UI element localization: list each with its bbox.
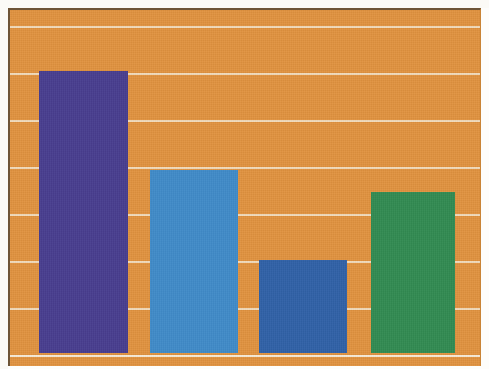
bar-2[interactable] [150, 170, 238, 353]
bar-fill-purple [39, 71, 128, 353]
bar-fill-dark-blue [259, 260, 347, 353]
axis-baseline [10, 355, 480, 357]
plot-area [8, 8, 481, 366]
bar-4[interactable] [371, 192, 455, 353]
gridline [10, 26, 480, 28]
figure-margin-top [0, 0, 489, 8]
bar-3[interactable] [259, 260, 347, 353]
figure-margin-left [0, 0, 8, 369]
bar-fill-green [371, 192, 455, 353]
bar-1[interactable] [39, 71, 128, 353]
bar-fill-light-blue [150, 170, 238, 353]
bar-chart-figure [0, 0, 489, 369]
